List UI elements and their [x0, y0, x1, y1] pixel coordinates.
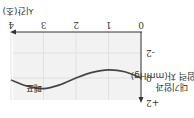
- x-tick-label: 2: [73, 20, 79, 30]
- x-tick-label: 3: [40, 20, 46, 30]
- x-tick-label: 1: [106, 20, 112, 30]
- chart-svg: 01234-20+2시간(초)대기압과폐포 압력 차(mmHg)폐포: [0, 0, 194, 118]
- x-axis-label: 시간(초): [2, 6, 33, 16]
- x-tick-label: 0: [138, 20, 144, 30]
- y-tick-label: +2: [146, 98, 159, 108]
- y-tick-label: -2: [146, 48, 155, 58]
- y-axis-label-line1: 대기압과: [156, 82, 188, 93]
- series-label-alveolus: 폐포: [26, 83, 42, 94]
- y-axis-label-line2: 폐포 압력 차(mmHg): [131, 71, 194, 82]
- chart-figure: 01234-20+2시간(초)대기압과폐포 압력 차(mmHg)폐포: [0, 0, 194, 118]
- x-tick-label: 4: [8, 20, 14, 30]
